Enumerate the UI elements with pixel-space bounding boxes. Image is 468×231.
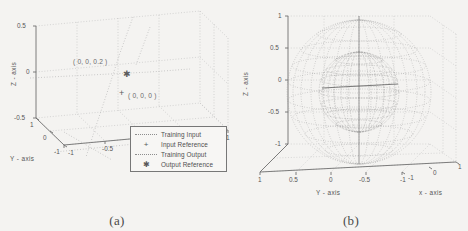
dotted-line-icon <box>133 130 159 139</box>
panel-b-z-tick-0: -1 <box>275 141 281 147</box>
panel-b-x-tick-0: -1 <box>408 175 414 181</box>
panel-a-annotation-input-ref: ( 0, 0, 0 ) <box>128 93 157 100</box>
panel-a-grid <box>36 11 228 145</box>
asterisk-icon: ✱ <box>123 70 131 79</box>
panel-b-z-tick-1: -0.5 <box>268 109 279 115</box>
panel-b-equator-line <box>322 84 398 88</box>
panel-a: Z - axis 0.5 0 -0.5 1 0 -1 Y - axis -1 -… <box>0 0 234 231</box>
panel-b-z-axis-title: Z - axis <box>243 72 249 96</box>
panel-b-x-axis-title: x - axis <box>419 190 442 196</box>
panel-b-y-axis-title: Y - axis <box>316 190 340 196</box>
panel-b-y-tick-1: 0.5 <box>289 177 298 183</box>
panel-a-z-tick-1: 0 <box>26 69 30 75</box>
panel-a-z-tick-2: -0.5 <box>14 115 25 121</box>
panel-a-y-axis-title: Y - axis <box>10 156 34 162</box>
panel-a-caption: (a) <box>0 213 234 229</box>
panel-a-y-tick-2: -1 <box>54 149 60 155</box>
panel-b-z-tick-3: 0.5 <box>270 45 279 51</box>
legend-item-input-reference: + Input Reference <box>133 139 224 149</box>
panel-a-z-axis-title: Z - axis <box>11 62 17 86</box>
panel-b-y-tick-0: 1 <box>258 177 262 183</box>
panel-a-y-tick-1: 0 <box>43 135 47 141</box>
legend-item-training-input: Training Input <box>133 129 224 139</box>
legend-label-input-reference: Input Reference <box>159 141 208 148</box>
panel-b-y-tick-3: -0.5 <box>359 177 370 183</box>
panel-b-z-tick-2: 0 <box>278 77 282 83</box>
legend-label-training-input: Training Input <box>159 131 201 138</box>
panel-b-x-ticks <box>402 162 459 174</box>
panel-a-x-tick-0: -1 <box>68 150 74 156</box>
panel-a-annotation-output-ref: ( 0, 0, 0.2 ) <box>73 59 107 66</box>
panel-b-grid <box>260 16 456 172</box>
panel-b-z-tick-4: 1 <box>278 13 282 19</box>
panel-b-z-ticks <box>285 16 288 144</box>
panel-b-x-tick-2: 1 <box>458 164 462 170</box>
panel-b-y-tick-4: -1 <box>400 177 406 183</box>
dotted-line-icon <box>133 150 159 159</box>
panel-b-y-ticks <box>260 172 402 175</box>
asterisk-marker-icon: ✱ <box>133 160 159 169</box>
panel-a-z-tick-0: 0.5 <box>17 23 26 29</box>
panel-a-plot <box>0 0 234 231</box>
panel-a-y-tick-0: 1 <box>30 122 34 128</box>
figure-container: Z - axis 0.5 0 -0.5 1 0 -1 Y - axis -1 -… <box>0 0 468 231</box>
legend-label-training-output: Training Output <box>159 151 206 158</box>
panel-b-axis-lines <box>260 16 456 172</box>
panel-b-x-tick-1: 0 <box>433 170 437 176</box>
panel-a-x-tick-1: -0.5 <box>102 146 113 152</box>
plus-icon: + <box>119 89 124 98</box>
plus-marker-icon: + <box>133 140 159 149</box>
legend-label-output-reference: Output Reference <box>159 161 213 168</box>
legend-item-output-reference: ✱ Output Reference <box>133 159 224 169</box>
panel-b: Z - axis 1 0.5 0 -0.5 -1 1 0.5 0 -0.5 -1… <box>234 0 468 231</box>
panel-b-y-tick-2: 0 <box>329 177 333 183</box>
panel-a-legend: Training Input + Input Reference Trainin… <box>130 126 227 172</box>
panel-b-caption: (b) <box>234 213 468 229</box>
legend-item-training-output: Training Output <box>133 149 224 159</box>
